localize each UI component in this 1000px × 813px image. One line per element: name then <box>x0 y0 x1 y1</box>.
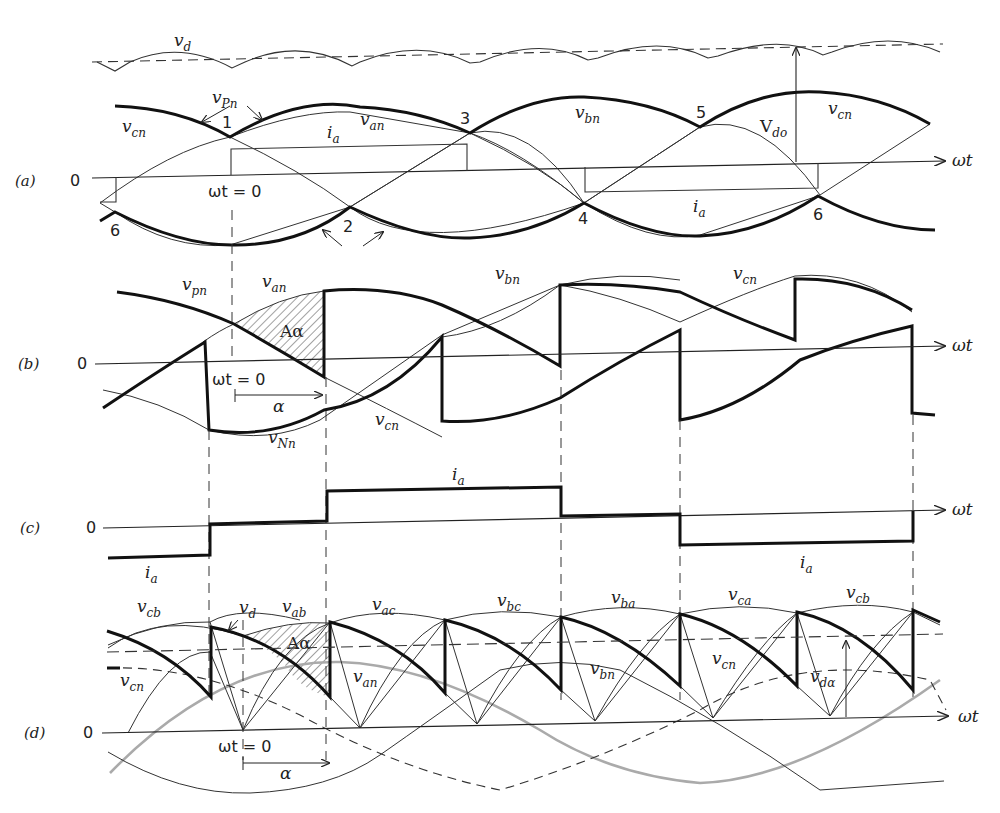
panel-d-axis <box>102 716 948 733</box>
vca-label: vca <box>728 584 751 608</box>
A-alpha-hatched-area <box>234 291 324 377</box>
point-6-left: 6 <box>110 221 120 240</box>
panel-a-label: (a) <box>15 172 36 190</box>
vbn-label: vbn <box>575 102 600 126</box>
van-label-d: van <box>353 666 378 690</box>
point-5: 5 <box>696 103 706 122</box>
vd-pointer-arrow <box>229 620 238 630</box>
ia-top-label-c: ia <box>452 464 465 488</box>
vcn-right-label-d: vcn <box>712 648 736 672</box>
point-4: 4 <box>578 209 588 228</box>
alpha-label-b: α <box>273 396 285 416</box>
vba-label: vba <box>611 587 635 611</box>
vNn-envelope <box>100 196 935 245</box>
thin-phase-curves-b <box>103 275 912 437</box>
panel-a-axis-label: ωt <box>952 150 973 170</box>
point-2: 2 <box>343 217 353 236</box>
vd-label: vd <box>174 30 192 54</box>
van-label-b: van <box>262 271 287 295</box>
panel-d-axis-label: ωt <box>958 706 979 726</box>
vbn-label-d: vbn <box>590 658 615 682</box>
panel-a: (a) 0 vd vPn vcn van vbn vcn ia ia Vdo ω… <box>15 30 973 360</box>
panel-c-axis <box>103 510 945 528</box>
ia-current-waveform <box>108 487 913 558</box>
ia-right-label-c: ia <box>800 552 813 576</box>
vcn-label-d: vcn <box>120 670 144 694</box>
panel-a-wt0-label: ωt = 0 <box>208 182 261 201</box>
vac-label: vac <box>372 594 396 618</box>
panel-b-axis <box>95 346 945 364</box>
vPn-arrow-right <box>247 106 262 120</box>
panel-b-wt0-label: ωt = 0 <box>212 370 265 389</box>
panel-c-label: (c) <box>20 519 40 537</box>
ia-left-pulse <box>100 177 116 202</box>
A-alpha-label-d: Aα <box>286 633 311 653</box>
vd-label-d: vd <box>239 597 257 621</box>
point-3: 3 <box>460 109 470 128</box>
vd-average-line <box>92 44 943 62</box>
vcb-label: vcb <box>137 596 161 620</box>
panel-d-zero: 0 <box>83 723 93 742</box>
ia-top-label: ia <box>327 122 340 146</box>
vd-alpha-average <box>107 634 943 652</box>
vd-ripple <box>97 41 940 71</box>
Vdo-label: Vdo <box>759 116 787 140</box>
vbc-label: vbc <box>497 590 521 614</box>
vPn-label: vPn <box>212 87 237 111</box>
panel-c-zero: 0 <box>86 518 96 537</box>
vcb-right-label: vcb <box>846 582 870 606</box>
panel-c: (c) 0 ia ia ia ωt <box>20 464 973 586</box>
panel-c-axis-label: ωt <box>952 499 973 519</box>
alpha-label-d: α <box>280 763 292 783</box>
panel-d-label: (d) <box>24 724 45 742</box>
vbn-label-b: vbn <box>495 263 520 287</box>
van-label: van <box>360 109 385 133</box>
vd-alpha-label: vdα <box>810 666 835 690</box>
panel-a-axis <box>92 161 945 178</box>
panel-b-zero: 0 <box>77 354 87 373</box>
vNn-arrow-left <box>323 230 342 246</box>
panel-b-axis-label: ωt <box>952 335 973 355</box>
ia-bottom-label: ia <box>693 196 706 220</box>
vpn-output <box>117 279 912 377</box>
panel-d: (d) 0 vcb vd vab vac vbc vba vca vcb vcn… <box>24 582 979 793</box>
point-6-right: 6 <box>813 205 823 224</box>
vcn-top-label-b: vcn <box>733 263 757 287</box>
ia-left-label-c: ia <box>145 562 158 586</box>
panel-d-wt0-label: ωt = 0 <box>218 737 271 756</box>
panel-b-label: (b) <box>18 355 39 373</box>
vcn-right-label: vcn <box>828 98 852 122</box>
panel-a-zero: 0 <box>70 171 80 190</box>
vNn-arrow-right <box>363 232 383 246</box>
point-1: 1 <box>222 113 232 132</box>
vpn-label: vpn <box>182 274 207 298</box>
vcn-label: vcn <box>122 116 146 140</box>
converter-waveform-diagram: (a) 0 vd vPn vcn van vbn vcn ia ia Vdo ω… <box>0 0 1000 813</box>
A-alpha-label-b: Aα <box>279 321 304 341</box>
ia-positive-pulse <box>231 144 467 175</box>
